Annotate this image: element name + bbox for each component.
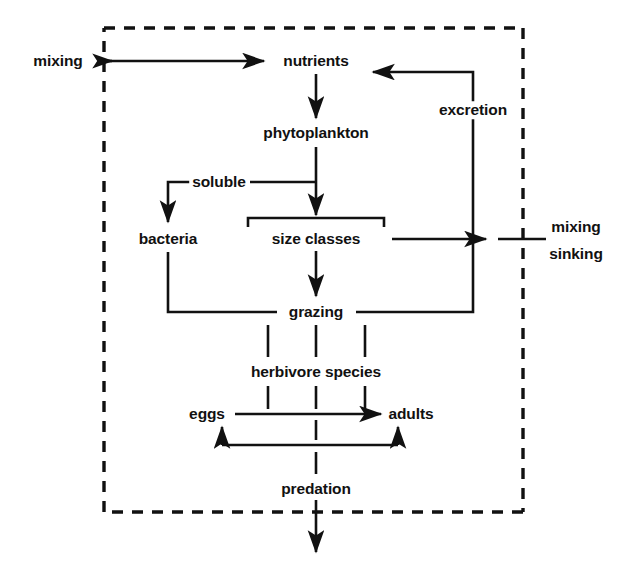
ecosystem-flow-diagram: mixing nutrients excretion phytoplankton…	[0, 0, 630, 570]
node-label-predation: predation	[278, 480, 354, 498]
edge-grazing-to-herbivores	[268, 325, 365, 357]
node-label-mixing-in: mixing	[30, 52, 85, 70]
node-label-eggs: eggs	[186, 405, 228, 423]
size-classes-bracket	[248, 218, 384, 227]
node-label-adults: adults	[385, 405, 436, 423]
edge-soluble-to-bacteria	[168, 182, 190, 222]
node-label-bacteria: bacteria	[136, 230, 201, 248]
node-label-herbivore-species: herbivore species	[248, 363, 384, 381]
edge-bacteria-to-grazing	[168, 252, 277, 312]
edge-adults-to-eggs-loop	[222, 427, 398, 445]
node-label-size-classes: size classes	[269, 230, 363, 248]
node-label-phytoplankton: phytoplankton	[260, 124, 371, 142]
edge-phytoplankton-split	[250, 147, 316, 215]
node-label-sinking-out: sinking	[546, 245, 606, 263]
edge-herbivores-to-stages	[268, 386, 365, 409]
node-label-grazing: grazing	[286, 303, 346, 321]
node-label-mixing-out: mixing	[548, 218, 603, 236]
node-label-nutrients: nutrients	[280, 52, 351, 70]
node-label-excretion: excretion	[436, 101, 510, 119]
node-label-soluble: soluble	[189, 173, 249, 191]
